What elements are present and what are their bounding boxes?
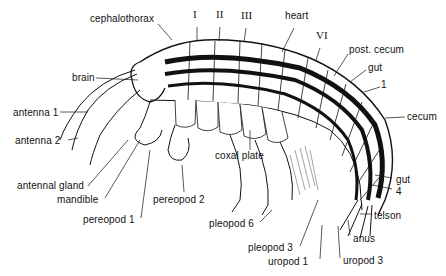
label-cecum: cecum <box>407 111 437 122</box>
label-segment-I: I <box>193 9 197 20</box>
label-pereopod-1: pereopod 1 <box>83 214 135 225</box>
label-gut-upper: gut <box>368 62 382 73</box>
label-segment-VI: VI <box>316 30 328 41</box>
label-num-1: 1 <box>381 79 387 90</box>
amphipod-illustration <box>0 0 446 276</box>
amphipod-diagram: cephalothorax I II III heart VI post. ce… <box>0 0 446 276</box>
label-gut-lower: gut <box>396 174 410 185</box>
label-brain: brain <box>72 72 95 83</box>
label-antenna-1: antenna 1 <box>13 107 58 118</box>
label-pleopod-6: pleopod 6 <box>209 218 254 229</box>
label-heart: heart <box>285 10 308 21</box>
label-telson: telson <box>374 210 401 221</box>
label-coxal-plate: coxal plate <box>215 150 264 161</box>
label-cephalothorax: cephalothorax <box>90 13 154 24</box>
label-segment-III: III <box>241 10 252 21</box>
label-mandible: mandible <box>57 194 98 205</box>
label-post-cecum: post. cecum <box>349 44 404 55</box>
label-segment-II: II <box>216 9 224 20</box>
label-pleopod-3: pleopod 3 <box>248 242 293 253</box>
label-uropod-1: uropod 1 <box>268 256 308 267</box>
label-uropod-3: uropod 3 <box>343 255 383 266</box>
label-anus: anus <box>353 233 375 244</box>
label-num-4: 4 <box>396 186 402 197</box>
label-antennal-gland: antennal gland <box>17 180 84 191</box>
label-antenna-2: antenna 2 <box>15 135 60 146</box>
label-pereopod-2: pereopod 2 <box>153 194 205 205</box>
